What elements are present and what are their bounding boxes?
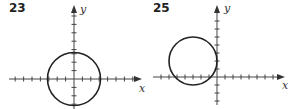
circle-graph-25: y x: [147, 0, 294, 109]
figure-23: 23: [0, 0, 147, 109]
y-axis-label: y: [223, 2, 231, 15]
y-axis-arrow: [71, 5, 77, 13]
y-axis-label: y: [79, 3, 87, 16]
circle-graph-23: y x: [0, 0, 147, 109]
x-axis-label: x: [282, 79, 289, 92]
figure-25: 25: [147, 0, 294, 109]
x-axis-label: x: [139, 82, 146, 95]
y-axis-arrow: [214, 5, 220, 13]
